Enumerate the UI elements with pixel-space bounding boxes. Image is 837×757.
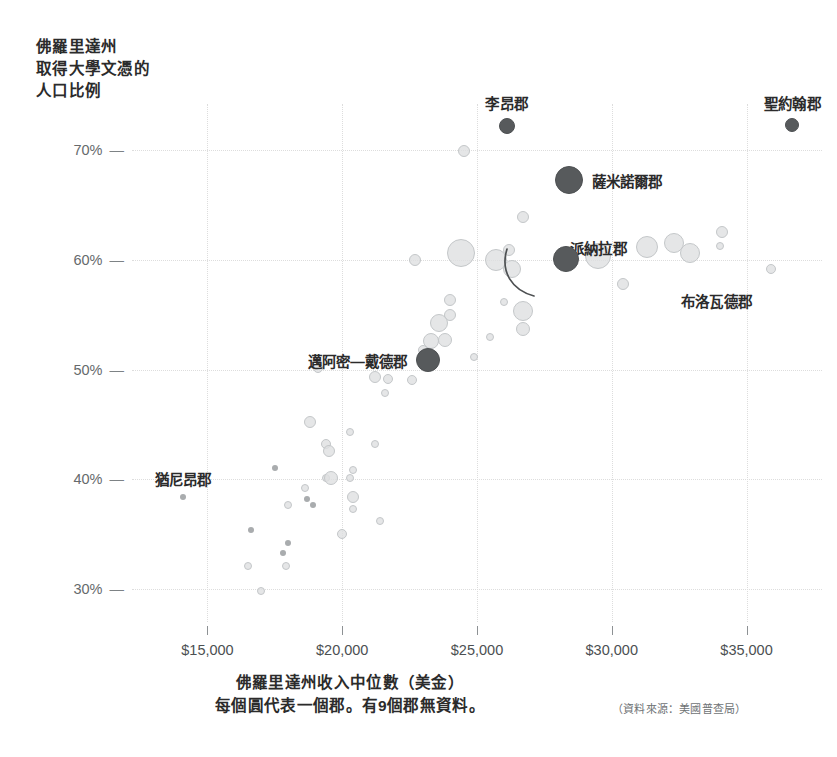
y-axis-tick-text: 70% <box>73 142 102 158</box>
data-bubble[interactable] <box>304 416 316 428</box>
data-bubble[interactable] <box>310 502 316 508</box>
data-bubble[interactable] <box>349 466 357 474</box>
data-bubble[interactable] <box>680 243 700 263</box>
data-bubble-highlighted[interactable] <box>553 246 579 272</box>
gridline-horizontal <box>132 479 822 480</box>
x-axis-tick-label: $30,000 <box>586 642 638 658</box>
data-bubble[interactable] <box>346 428 354 436</box>
y-axis-tick-label: 70%— <box>32 142 124 158</box>
gridline-horizontal <box>132 589 822 590</box>
point-label: 布洛瓦德郡 <box>681 290 752 311</box>
x-axis-tick-label: $35,000 <box>720 642 772 658</box>
data-bubble[interactable] <box>301 484 309 492</box>
gridline-vertical <box>477 104 478 622</box>
y-axis-title-line-3: 人口比例 <box>36 80 266 102</box>
data-bubble[interactable] <box>272 465 278 471</box>
data-bubble[interactable] <box>349 505 357 513</box>
data-bubble[interactable] <box>257 587 265 595</box>
y-axis-tick-label: 40%— <box>32 471 124 487</box>
x-axis-note: 每個圓代表一個郡。有9個郡無資料。 <box>0 695 700 718</box>
y-axis-tick-label: 50%— <box>32 362 124 378</box>
data-bubble[interactable] <box>376 517 384 525</box>
data-bubble[interactable] <box>503 260 521 278</box>
data-bubble-highlighted[interactable] <box>785 118 799 132</box>
data-bubble[interactable] <box>716 226 728 238</box>
data-bubble[interactable] <box>323 445 335 457</box>
gridline-horizontal <box>132 260 822 261</box>
plot-area: 70%—60%—50%—40%—30%—$15,000$20,000$25,00… <box>132 112 822 622</box>
data-bubble[interactable] <box>282 562 290 570</box>
data-bubble[interactable] <box>407 375 417 385</box>
point-label: 李昂郡 <box>485 92 528 113</box>
data-bubble[interactable] <box>500 298 508 306</box>
data-bubble[interactable] <box>280 550 286 556</box>
gridline-horizontal <box>132 150 822 151</box>
data-bubble[interactable] <box>369 371 381 383</box>
data-bubble[interactable] <box>470 353 478 361</box>
data-bubble[interactable] <box>383 374 393 384</box>
data-bubble[interactable] <box>284 501 292 509</box>
data-bubble-highlighted[interactable] <box>416 348 440 372</box>
data-bubble[interactable] <box>447 239 475 267</box>
y-axis-tick-dash: — <box>110 471 125 487</box>
gridline-vertical <box>747 104 748 622</box>
x-axis-tick-label: $25,000 <box>451 642 503 658</box>
data-bubble[interactable] <box>244 562 252 570</box>
point-label: 薩米諾爾郡 <box>592 170 663 191</box>
x-axis-tickmark <box>477 626 478 635</box>
y-axis-tick-label: 60%— <box>32 252 124 268</box>
data-bubble[interactable] <box>444 294 456 306</box>
x-axis-tickmark <box>207 626 208 635</box>
data-bubble-highlighted[interactable] <box>555 166 583 194</box>
data-bubble[interactable] <box>430 314 448 332</box>
data-bubble[interactable] <box>617 278 629 290</box>
data-bubble[interactable] <box>337 529 347 539</box>
data-bubble[interactable] <box>716 242 724 250</box>
y-axis-title-line-2: 取得大學文憑的 <box>36 58 266 80</box>
x-axis-title-line-1: 佛羅里達州收入中位數（美金） <box>0 672 700 695</box>
y-axis-tick-label: 30%— <box>32 581 124 597</box>
y-axis-tick-text: 40% <box>73 471 102 487</box>
x-axis-tick-label: $20,000 <box>316 642 368 658</box>
data-bubble-highlighted[interactable] <box>499 118 515 134</box>
x-axis-tickmark <box>342 626 343 635</box>
data-bubble[interactable] <box>513 301 533 321</box>
data-bubble[interactable] <box>516 322 530 336</box>
data-bubble[interactable] <box>371 440 379 448</box>
data-bubble[interactable] <box>248 527 254 533</box>
gridline-vertical <box>207 104 208 622</box>
y-axis-title-line-1: 佛羅里達州 <box>36 36 266 58</box>
data-bubble[interactable] <box>347 491 359 503</box>
data-bubble[interactable] <box>324 471 338 485</box>
data-bubble[interactable] <box>517 211 529 223</box>
x-axis-title: 佛羅里達州收入中位數（美金） 每個圓代表一個郡。有9個郡無資料。 <box>0 672 700 718</box>
data-bubble[interactable] <box>486 333 494 341</box>
point-label: 猶尼昂郡 <box>155 468 212 489</box>
x-axis-tickmark <box>612 626 613 635</box>
y-axis-tick-dash: — <box>110 362 125 378</box>
y-axis-tick-dash: — <box>110 142 125 158</box>
y-axis-tick-dash: — <box>110 252 125 268</box>
gridline-horizontal <box>132 370 822 371</box>
data-bubble-highlighted[interactable] <box>180 494 186 500</box>
data-bubble[interactable] <box>766 264 776 274</box>
data-bubble[interactable] <box>503 244 515 256</box>
data-bubble[interactable] <box>346 474 354 482</box>
point-label: 邁阿密—戴德郡 <box>308 350 408 371</box>
y-axis-tick-text: 30% <box>73 581 102 597</box>
data-bubble-highlighted[interactable] <box>636 236 658 258</box>
x-axis-tickmark <box>747 626 748 635</box>
data-bubble[interactable] <box>458 145 470 157</box>
data-bubble[interactable] <box>285 540 291 546</box>
y-axis-title: 佛羅里達州 取得大學文憑的 人口比例 <box>36 36 266 102</box>
data-bubble[interactable] <box>304 496 310 502</box>
y-axis-tick-text: 60% <box>73 252 102 268</box>
x-axis-tick-label: $15,000 <box>181 642 233 658</box>
data-bubble[interactable] <box>438 333 452 347</box>
data-bubble[interactable] <box>409 254 421 266</box>
point-label: 聖約翰郡 <box>764 92 821 113</box>
bubble-chart: 佛羅里達州 取得大學文憑的 人口比例 70%—60%—50%—40%—30%—$… <box>0 0 837 757</box>
source-note: （資料來源：美國普查局） <box>612 700 746 716</box>
data-bubble[interactable] <box>381 389 389 397</box>
y-axis-tick-dash: — <box>110 581 125 597</box>
